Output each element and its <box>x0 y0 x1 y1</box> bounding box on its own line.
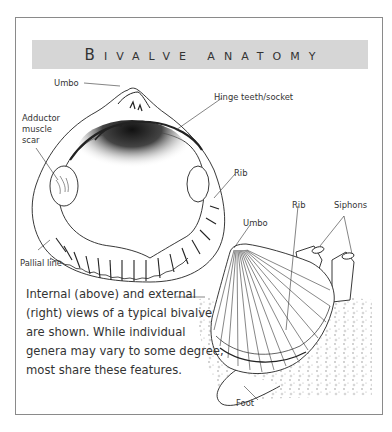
internal-shell <box>32 88 225 282</box>
label-pallial-line: Pallial line <box>20 258 62 269</box>
label-adductor-2: muscle <box>22 124 52 135</box>
label-adductor-1: Adductor <box>22 113 60 124</box>
label-rib-external: Rib <box>292 200 305 211</box>
label-umbo-internal: Umbo <box>54 78 79 89</box>
label-umbo-external: Umbo <box>243 218 268 229</box>
figure-caption: Internal (above) and external (right) vi… <box>26 285 226 380</box>
label-foot: Foot <box>236 398 254 409</box>
label-hinge-teeth: Hinge teeth/socket <box>214 92 293 103</box>
label-siphons: Siphons <box>334 200 367 211</box>
label-adductor-3: scar <box>22 135 40 146</box>
label-rib-internal: Rib <box>234 168 247 179</box>
